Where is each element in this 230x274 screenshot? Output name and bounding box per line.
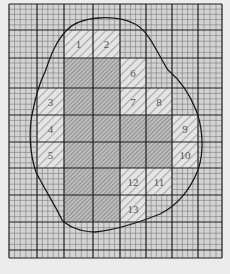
full-square <box>93 58 120 88</box>
full-square <box>64 195 93 222</box>
full-square <box>64 88 93 115</box>
square-label: 1 <box>76 38 82 50</box>
square-label: 2 <box>104 38 110 50</box>
full-square <box>64 142 93 168</box>
full-square <box>93 142 120 168</box>
square-label: 6 <box>130 67 136 79</box>
square-label: 5 <box>48 149 54 161</box>
full-square <box>64 115 93 142</box>
full-square <box>146 115 172 142</box>
square-label: 12 <box>128 176 139 188</box>
full-square <box>120 115 146 142</box>
grid-diagram: 12345678910111213 <box>0 0 230 274</box>
square-label: 10 <box>180 149 192 161</box>
full-square <box>120 142 146 168</box>
square-label: 11 <box>154 176 165 188</box>
square-label: 3 <box>48 96 54 108</box>
square-label: 13 <box>128 203 140 215</box>
square-label: 7 <box>130 96 136 108</box>
full-square <box>93 195 120 222</box>
full-square <box>146 142 172 168</box>
full-square <box>93 168 120 195</box>
square-label: 9 <box>182 123 188 135</box>
square-label: 4 <box>48 123 54 135</box>
full-square <box>64 168 93 195</box>
full-square <box>93 115 120 142</box>
full-square <box>64 58 93 88</box>
full-square <box>93 88 120 115</box>
square-label: 8 <box>156 96 162 108</box>
grid-area-figure: 12345678910111213 <box>0 0 230 274</box>
